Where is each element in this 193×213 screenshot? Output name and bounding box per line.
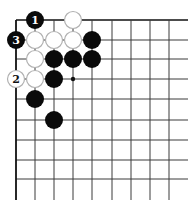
board-grid [16,20,188,200]
black-stone-1: 1 [26,11,44,29]
black-stone-3: 3 [7,31,25,49]
white-stone [27,32,44,49]
move-number-label: 3 [12,34,20,47]
white-stone [27,51,44,68]
black-stone [83,50,101,68]
move-number-label: 1 [31,14,39,27]
black-stone [45,50,63,68]
point-marker-dot [71,77,75,81]
go-board: 132 [0,0,193,213]
black-stone [45,111,63,129]
white-stone [46,32,63,49]
white-stone-2: 2 [8,71,25,88]
black-stone [45,70,63,88]
board-markers [71,77,75,81]
white-stone [27,71,44,88]
black-stone [64,50,82,68]
white-stone [65,32,82,49]
black-stone [83,31,101,49]
move-number-label: 2 [12,73,20,86]
black-stone [26,90,44,108]
white-stone [65,12,82,29]
